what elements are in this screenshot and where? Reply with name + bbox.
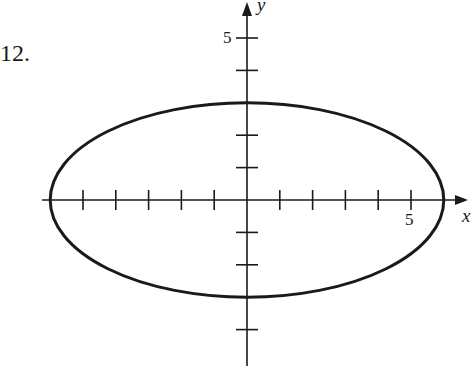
- ellipse-graph: [0, 0, 471, 368]
- y-tick-label-5: 5: [223, 28, 232, 48]
- x-tick-label-5: 5: [405, 210, 414, 230]
- y-axis-arrow-icon: [242, 2, 252, 16]
- y-axis-label: y: [257, 0, 265, 16]
- problem-number: 12.: [0, 40, 30, 67]
- x-axis-arrow-icon: [455, 195, 468, 205]
- x-axis-label: x: [462, 205, 470, 227]
